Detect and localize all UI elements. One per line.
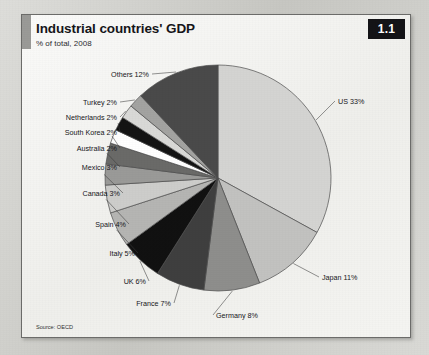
pie-slice-label: Australia 2% (77, 145, 117, 152)
screenshot-page: Industrial countries' GDP % of total, 20… (0, 0, 429, 355)
pie-slice-label: South Korea 2% (65, 129, 117, 136)
pie-leader-line (174, 285, 179, 303)
pie-slice-label: Mexico 3% (82, 164, 117, 171)
pie-slice-label: US 33% (338, 98, 364, 105)
title-accent-bar (22, 15, 31, 49)
pie-chart-svg (22, 49, 410, 324)
pie-slice-label: UK 6% (124, 278, 146, 285)
pie-leader-line (120, 100, 135, 102)
figure-subtitle: % of total, 2008 (36, 39, 92, 48)
pie-slice-label: France 7% (136, 300, 171, 307)
pie-leader-line (316, 101, 335, 120)
pie-slice-group (105, 65, 331, 291)
pie-slice-label: Turkey 2% (83, 99, 117, 106)
pie-slice-label: Spain 4% (95, 221, 126, 228)
source-note: Source: OECD (36, 324, 73, 330)
pie-chart: US 33%Japan 11%Germany 8%France 7%UK 6%I… (22, 49, 410, 324)
page-title: Industrial countries' GDP (36, 21, 195, 36)
pie-slice-label: Germany 8% (216, 312, 258, 319)
pie-slice-label: Netherlands 2% (66, 114, 117, 121)
figure-frame: Industrial countries' GDP % of total, 20… (21, 14, 411, 338)
pie-slice-label: Japan 11% (322, 274, 357, 281)
pie-slice-label: Italy 5% (109, 250, 135, 257)
pie-leader-line (293, 264, 319, 277)
pie-leader-line (152, 72, 176, 74)
figure-number-badge: 1.1 (368, 19, 405, 39)
pie-slice-label: Others 12% (111, 71, 149, 78)
pie-slice-label: Canada 3% (82, 190, 120, 197)
